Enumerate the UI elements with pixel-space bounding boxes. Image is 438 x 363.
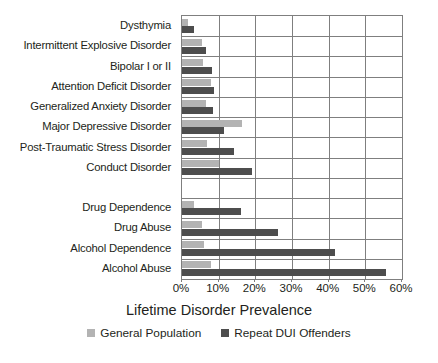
value-tick-label: 50%: [353, 281, 376, 295]
plot-area: [181, 15, 403, 280]
bar-group: [182, 178, 402, 198]
bar-repeat-dui-offenders: [182, 208, 241, 215]
bar-repeat-dui-offenders: [182, 47, 206, 54]
value-tick-label: 40%: [316, 281, 339, 295]
bar-general-population: [182, 221, 202, 228]
category-label: Conduct Disorder: [86, 161, 171, 173]
value-tick-mark: [254, 279, 255, 282]
bar-general-population: [182, 100, 206, 107]
bar-group: [182, 117, 402, 137]
bar-repeat-dui-offenders: [182, 168, 252, 175]
bar-group: [182, 218, 402, 238]
category-label: Major Depressive Disorder: [42, 120, 171, 132]
bar-repeat-dui-offenders: [182, 148, 234, 155]
bar-group: [182, 16, 402, 36]
value-tick-mark: [291, 279, 292, 282]
value-tick-mark: [328, 279, 329, 282]
bar-general-population: [182, 160, 219, 167]
value-axis-tick-labels: 0%10%20%30%40%50%60%: [0, 281, 438, 297]
value-tick-mark: [401, 279, 402, 282]
bar-general-population: [182, 261, 211, 268]
legend-swatch-icon: [221, 329, 229, 337]
value-tick-label: 60%: [389, 281, 412, 295]
category-label: Alcohol Dependence: [70, 242, 171, 254]
legend-item: Repeat DUI Offenders: [221, 326, 351, 340]
bar-group: [182, 239, 402, 259]
value-tick-label: 30%: [279, 281, 302, 295]
bar-repeat-dui-offenders: [182, 269, 386, 276]
bar-general-population: [182, 39, 202, 46]
category-label: Bipolar I or II: [110, 60, 171, 72]
bar-general-population: [182, 201, 194, 208]
category-label: Attention Deficit Disorder: [51, 80, 171, 92]
bar-repeat-dui-offenders: [182, 87, 214, 94]
bar-repeat-dui-offenders: [182, 229, 278, 236]
category-label: Alcohol Abuse: [102, 262, 171, 274]
bar-group: [182, 97, 402, 117]
category-label: Post-Traumatic Stress Disorder: [20, 141, 171, 153]
bar-general-population: [182, 241, 204, 248]
bar-general-population: [182, 19, 188, 26]
bar-group: [182, 259, 402, 279]
legend-label: Repeat DUI Offenders: [234, 326, 351, 340]
bar-repeat-dui-offenders: [182, 127, 224, 134]
category-label: Dysthymia: [120, 19, 171, 31]
bar-general-population: [182, 140, 207, 147]
bar-repeat-dui-offenders: [182, 249, 335, 256]
category-label: Intermittent Explosive Disorder: [23, 39, 171, 51]
bar-group: [182, 158, 402, 178]
axis-title: Lifetime Disorder Prevalence: [0, 301, 438, 319]
value-tick-label: 20%: [243, 281, 266, 295]
bar-group: [182, 198, 402, 218]
bar-general-population: [182, 120, 242, 127]
bar-general-population: [182, 79, 211, 86]
bar-repeat-dui-offenders: [182, 107, 213, 114]
bar-chart: DysthymiaIntermittent Explosive Disorder…: [0, 0, 438, 363]
bar-general-population: [182, 59, 203, 66]
value-tick-mark: [218, 279, 219, 282]
category-label: Drug Dependence: [82, 201, 171, 213]
bar-group: [182, 77, 402, 97]
category-axis: DysthymiaIntermittent Explosive Disorder…: [0, 15, 176, 278]
value-tick-label: 10%: [206, 281, 229, 295]
value-tick-mark: [181, 279, 182, 282]
bar-repeat-dui-offenders: [182, 26, 194, 33]
bar-group: [182, 56, 402, 76]
category-label: Drug Abuse: [114, 221, 171, 233]
chart-legend: General PopulationRepeat DUI Offenders: [0, 326, 438, 340]
value-tick-mark: [364, 279, 365, 282]
bar-group: [182, 36, 402, 56]
legend-swatch-icon: [87, 329, 95, 337]
legend-label: General Population: [100, 326, 201, 340]
legend-item: General Population: [87, 326, 201, 340]
bar-group: [182, 137, 402, 157]
bar-repeat-dui-offenders: [182, 67, 212, 74]
value-tick-label: 0%: [173, 281, 190, 295]
category-label: Generalized Anxiety Disorder: [30, 100, 171, 112]
